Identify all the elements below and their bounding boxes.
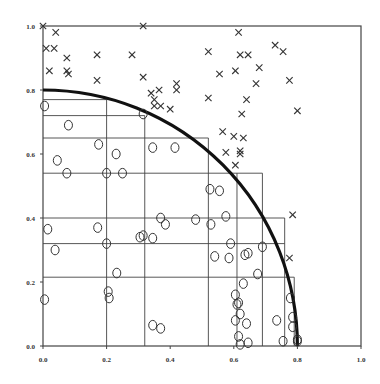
x-marker: [94, 52, 100, 58]
y-tick-label: 1.0: [26, 23, 35, 31]
x-marker: [231, 133, 237, 139]
x-tick-label: 0.4: [166, 356, 175, 364]
o-marker: [51, 245, 59, 255]
x-marker: [129, 52, 135, 58]
x-marker: [232, 68, 238, 74]
x-marker: [205, 95, 211, 101]
monte-carlo-grid-rectangles: [43, 100, 294, 346]
x-tick-label: 0.0: [39, 356, 48, 364]
o-marker: [149, 320, 157, 330]
o-marker: [192, 215, 200, 225]
x-marker: [239, 111, 245, 117]
outside-points-x-markers: [40, 23, 301, 261]
o-marker: [279, 336, 287, 346]
x-marker: [156, 87, 162, 93]
x-marker: [216, 71, 222, 77]
plot-frame: [43, 26, 361, 346]
o-marker: [206, 184, 214, 194]
x-marker: [151, 103, 157, 109]
o-marker: [231, 316, 239, 326]
scatter-chart: 0.00.20.40.60.81.0 0.00.20.40.60.81.0: [0, 0, 380, 384]
o-marker: [53, 156, 61, 166]
o-marker: [157, 324, 165, 334]
x-marker: [151, 96, 157, 102]
x-tick-label: 0.6: [229, 356, 238, 364]
o-marker: [139, 231, 147, 241]
x-marker: [286, 77, 292, 83]
o-marker: [95, 140, 103, 150]
x-marker: [51, 45, 57, 51]
o-marker: [211, 252, 219, 262]
x-marker: [253, 80, 259, 86]
x-marker: [157, 103, 163, 109]
x-marker: [240, 135, 246, 141]
x-marker: [237, 52, 243, 58]
o-marker: [273, 316, 281, 326]
y-tick-label: 0.0: [26, 343, 35, 351]
o-marker: [44, 224, 52, 234]
x-tick-label: 0.8: [293, 356, 302, 364]
o-marker: [161, 220, 169, 230]
y-tick-label: 0.8: [26, 87, 35, 95]
o-marker: [64, 120, 72, 130]
o-marker: [243, 319, 251, 329]
o-marker: [171, 143, 179, 153]
x-marker: [245, 52, 251, 58]
x-marker: [232, 162, 238, 168]
o-marker: [215, 186, 223, 196]
o-marker: [239, 279, 247, 289]
x-tick-label: 0.2: [102, 356, 111, 364]
o-marker: [244, 248, 252, 258]
x-marker: [64, 55, 70, 61]
x-axis-ticks: 0.00.20.40.60.81.0: [39, 346, 366, 364]
x-marker: [243, 96, 249, 102]
x-marker: [289, 212, 295, 218]
x-marker: [173, 87, 179, 93]
x-marker: [272, 42, 278, 48]
o-marker: [94, 223, 102, 233]
x-tick-label: 1.0: [357, 356, 366, 364]
o-marker: [41, 101, 49, 111]
o-marker: [113, 268, 121, 278]
o-marker: [149, 233, 157, 243]
y-tick-label: 0.6: [26, 151, 35, 159]
x-marker: [237, 151, 243, 157]
x-marker: [46, 68, 52, 74]
o-marker: [222, 212, 230, 222]
o-marker: [231, 290, 239, 300]
x-marker: [286, 255, 292, 261]
x-marker: [223, 149, 229, 155]
x-marker: [256, 64, 262, 70]
plot-border: [43, 26, 361, 346]
x-marker: [237, 148, 243, 154]
x-marker: [167, 106, 173, 112]
x-marker: [53, 29, 59, 35]
o-marker: [149, 143, 157, 153]
x-marker: [173, 80, 179, 86]
x-marker: [235, 29, 241, 35]
x-marker: [94, 77, 100, 83]
x-marker: [219, 128, 225, 134]
o-marker: [104, 287, 112, 297]
x-marker: [148, 90, 154, 96]
o-marker: [112, 149, 120, 159]
x-marker: [294, 108, 300, 114]
y-tick-label: 0.4: [26, 215, 35, 223]
x-marker: [280, 48, 286, 54]
o-marker: [225, 253, 233, 263]
y-tick-label: 0.2: [26, 279, 35, 287]
x-marker: [140, 74, 146, 80]
x-marker: [43, 45, 49, 51]
x-marker: [205, 48, 211, 54]
o-marker: [41, 295, 49, 305]
